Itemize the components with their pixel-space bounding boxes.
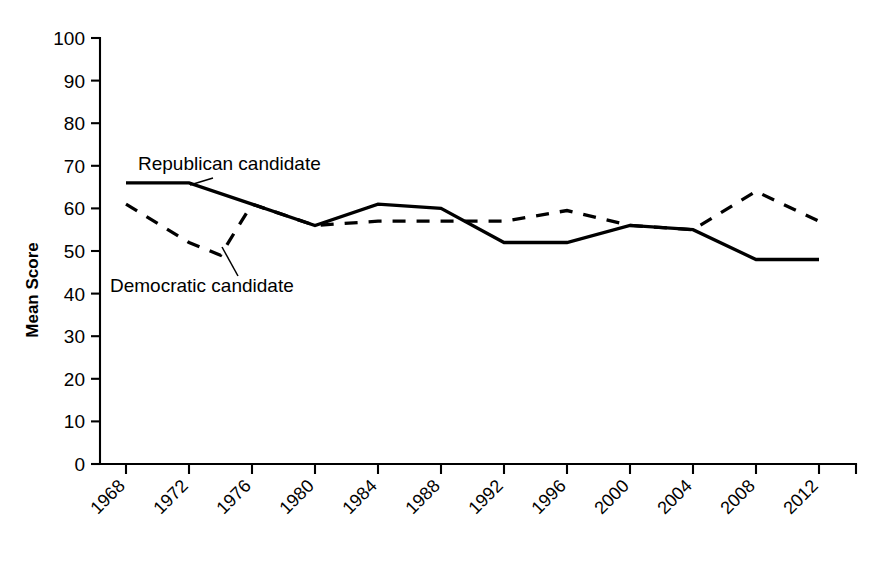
series-line-democratic — [126, 191, 819, 255]
x-tick-label: 1976 — [212, 476, 254, 518]
x-tick-label: 1980 — [275, 476, 317, 518]
x-axis-ticks: 1968 1972 1976 1980 1984 1988 1992 1996 … — [86, 464, 856, 518]
y-tick-label: 100 — [53, 28, 85, 49]
annotation-republican: Republican candidate — [138, 153, 321, 185]
annotation-republican-leader — [190, 178, 213, 185]
y-tick-label: 90 — [64, 71, 85, 92]
x-tick-label: 1972 — [149, 476, 191, 518]
x-tick-label: 2008 — [716, 476, 758, 518]
y-tick-label: 0 — [74, 454, 85, 475]
y-tick-label: 40 — [64, 284, 85, 305]
x-tick-label: 1968 — [86, 476, 128, 518]
x-tick-label: 2004 — [653, 476, 695, 518]
x-tick-label: 1992 — [464, 476, 506, 518]
x-tick-label: 2012 — [779, 476, 821, 518]
x-tick-label: 1984 — [338, 476, 380, 518]
annotation-democratic-leader — [222, 247, 238, 276]
annotation-democratic: Democratic candidate — [110, 247, 294, 296]
x-tick-label: 1996 — [527, 476, 569, 518]
y-tick-label: 80 — [64, 113, 85, 134]
chart-container: Mean Score 100 90 80 70 60 50 40 30 20 — [0, 0, 883, 561]
y-tick-label: 10 — [64, 411, 85, 432]
y-tick-label: 30 — [64, 326, 85, 347]
line-chart: Mean Score 100 90 80 70 60 50 40 30 20 — [0, 0, 883, 561]
y-axis-title-text: Mean Score — [23, 242, 42, 337]
y-tick-label: 70 — [64, 156, 85, 177]
y-axis-title: Mean Score — [23, 242, 42, 337]
y-axis-ticks: 100 90 80 70 60 50 40 30 20 10 0 — [53, 28, 100, 475]
y-tick-label: 50 — [64, 241, 85, 262]
x-tick-label: 1988 — [401, 476, 443, 518]
y-tick-label: 60 — [64, 198, 85, 219]
annotation-republican-label: Republican candidate — [138, 153, 321, 174]
annotation-democratic-label: Democratic candidate — [110, 275, 294, 296]
x-tick-label: 2000 — [590, 476, 632, 518]
y-tick-label: 20 — [64, 369, 85, 390]
